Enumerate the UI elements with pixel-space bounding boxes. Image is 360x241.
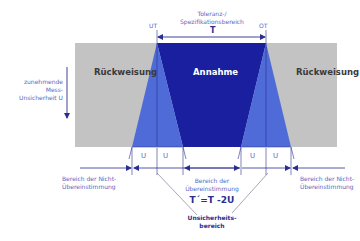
reduced-tolerance-formula: T´=T -2U xyxy=(182,195,242,205)
nonconformity-left-label: Bereich der Nicht- Übereinstimmung xyxy=(62,175,116,191)
rejection-right-label: Rückweisung xyxy=(296,67,359,77)
u-label: U xyxy=(273,152,278,160)
ot-label: OT xyxy=(259,22,267,30)
nonconformity-right-label: Bereich der Nicht- Übereinstimmung xyxy=(300,175,354,191)
tolerance-label: Toleranz-/ Spezifikationsbereich xyxy=(176,10,248,26)
conformity-label: Bereich der Übereinstimmung xyxy=(176,177,248,193)
rejection-left-label: Rückweisung xyxy=(94,67,157,77)
measurement-uncertainty-diagram: Toleranz-/ Spezifikationsbereich T UT OT… xyxy=(0,0,360,241)
uncertainty-range-label: Unsicherheits- bereich xyxy=(182,214,242,230)
u-label: U xyxy=(250,152,255,160)
u-label: U xyxy=(141,152,146,160)
tolerance-symbol: T xyxy=(210,26,215,35)
diagram-graphics xyxy=(0,0,360,241)
acceptance-label: Annahme xyxy=(193,67,238,77)
u-label: U xyxy=(163,152,168,160)
ut-label: UT xyxy=(149,22,157,30)
uncertainty-axis-label: zunehmende Mess- Unsicherheit U xyxy=(5,78,63,102)
